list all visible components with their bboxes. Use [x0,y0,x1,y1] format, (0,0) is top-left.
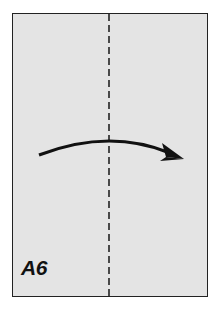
fold-arrow-curve [39,141,170,155]
step-label: A6 [21,256,47,280]
fold-arrow-head-icon [162,143,184,159]
